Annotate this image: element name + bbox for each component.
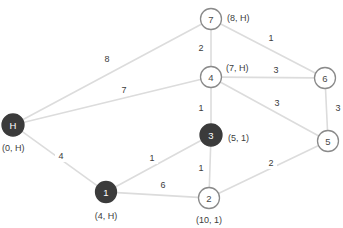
edge-weight-label: 6: [160, 180, 165, 190]
edge-weight-label: 7: [121, 85, 126, 95]
graph-edge: [24, 80, 200, 123]
edge-weight-label: 1: [149, 153, 154, 163]
edge-weight-label: 8: [104, 54, 109, 64]
graph-node-label: 3: [208, 130, 213, 141]
graph-edge: [117, 193, 198, 198]
edge-weight-label: 1: [268, 33, 273, 43]
node-annotation-2: (10, 1): [196, 215, 222, 225]
edge-weight-label: 3: [274, 98, 279, 108]
graph-node-label: 6: [322, 73, 327, 84]
nodes-layer: H1234567: [2, 9, 339, 209]
edge-weight-label: 1: [198, 163, 203, 173]
graph-edge: [209, 146, 210, 187]
graph-canvas: 8742133131162 H1234567 (0, H)(4, H)(10, …: [0, 0, 343, 228]
graph-edge: [222, 77, 314, 78]
node-annotation-H: (0, H): [2, 143, 25, 153]
edge-weight-label: 2: [198, 43, 203, 53]
graph-edge: [221, 82, 319, 135]
edge-weight-label: 2: [268, 158, 273, 168]
graph-node-label: 5: [325, 136, 330, 147]
edges-layer: [22, 24, 327, 197]
graph-node-label: 7: [208, 14, 213, 25]
edge-weight-label: 3: [335, 103, 340, 113]
node-annotation-3: (5, 1): [228, 133, 249, 143]
node-annotation-4: (7, H): [226, 63, 249, 73]
node-annotation-1: (4, H): [95, 211, 118, 221]
node-annotation-7: (8, H): [227, 13, 250, 23]
edge-weight-label: 3: [273, 65, 278, 75]
edge-weight-label: 4: [58, 151, 63, 161]
graph-node-label: 4: [208, 72, 213, 83]
graph-diagram: 8742133131162 H1234567 (0, H)(4, H)(10, …: [0, 0, 343, 228]
edge-weights-layer: 8742133131162: [55, 32, 343, 191]
graph-edge: [326, 89, 328, 130]
graph-node-label: 1: [103, 187, 108, 198]
graph-node-label: 2: [206, 193, 211, 204]
graph-node-label: H: [10, 120, 17, 131]
graph-edge: [23, 24, 201, 119]
edge-weight-label: 1: [198, 103, 203, 113]
graph-edge: [219, 146, 318, 193]
